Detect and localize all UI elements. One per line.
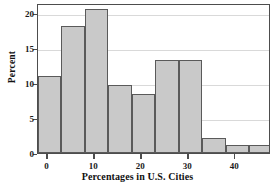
x-axis-title: Percentages in U.S. Cities: [0, 171, 275, 182]
histogram-bar: [249, 145, 270, 153]
x-tick-40: [234, 154, 235, 159]
x-tick-30: [187, 154, 188, 159]
x-tick-label: 20: [127, 161, 153, 171]
x-tick-label: 40: [221, 161, 247, 171]
x-tick-20: [140, 154, 141, 159]
y-tick-label: 5: [12, 115, 34, 124]
y-tick-label: 0: [12, 150, 34, 159]
histogram-bar: [226, 145, 249, 153]
y-tick-label: 20: [12, 10, 34, 19]
histogram-bar: [61, 26, 84, 153]
y-tick-label: 15: [12, 45, 34, 54]
x-tick-10: [93, 154, 94, 159]
histogram-bar: [85, 9, 108, 153]
histogram-figure: Percent 05101520 010203040 Percentages i…: [0, 0, 275, 184]
x-tick-label: 30: [174, 161, 200, 171]
x-tick-0: [46, 154, 47, 159]
histogram-bar: [132, 94, 155, 153]
plot-area: [37, 4, 270, 154]
histogram-bar: [38, 76, 61, 153]
histogram-bar: [155, 60, 178, 153]
x-tick-label: 10: [80, 161, 106, 171]
y-tick-label: 10: [12, 80, 34, 89]
gridline-y-20: [38, 15, 269, 16]
histogram-bar: [108, 85, 131, 153]
histogram-bar: [202, 138, 225, 153]
histogram-bar: [179, 60, 202, 153]
x-tick-label: 0: [33, 161, 59, 171]
